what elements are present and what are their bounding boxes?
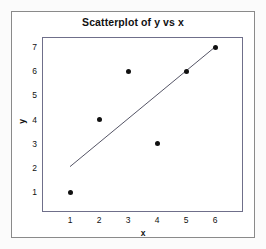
- data-point: [213, 45, 218, 50]
- data-point: [184, 69, 189, 74]
- x-tick-label: 3: [121, 216, 135, 225]
- chart-title: Scatterplot of y vs x: [11, 16, 255, 28]
- plot-area: [42, 37, 243, 212]
- y-tick-label: 7: [23, 43, 37, 52]
- y-tick-label: 3: [23, 140, 37, 149]
- x-tick-label: 2: [92, 216, 106, 225]
- x-tick-label: 1: [63, 216, 77, 225]
- y-tick-label: 1: [23, 188, 37, 197]
- data-point: [97, 117, 102, 122]
- x-axis-label: x: [133, 229, 153, 238]
- data-point: [68, 190, 73, 195]
- y-tick-label: 6: [23, 67, 37, 76]
- data-point: [126, 69, 131, 74]
- y-tick-label: 5: [23, 91, 37, 100]
- plot-inner: [43, 38, 242, 211]
- data-point: [155, 141, 160, 146]
- x-tick-label: 5: [179, 216, 193, 225]
- x-tick-label: 6: [208, 216, 222, 225]
- x-tick-label: 4: [150, 216, 164, 225]
- chart-screenshot: Scatterplot of y vs x 1234567 123456 y x: [0, 0, 266, 249]
- y-axis-label: y: [18, 115, 27, 127]
- y-tick-label: 2: [23, 164, 37, 173]
